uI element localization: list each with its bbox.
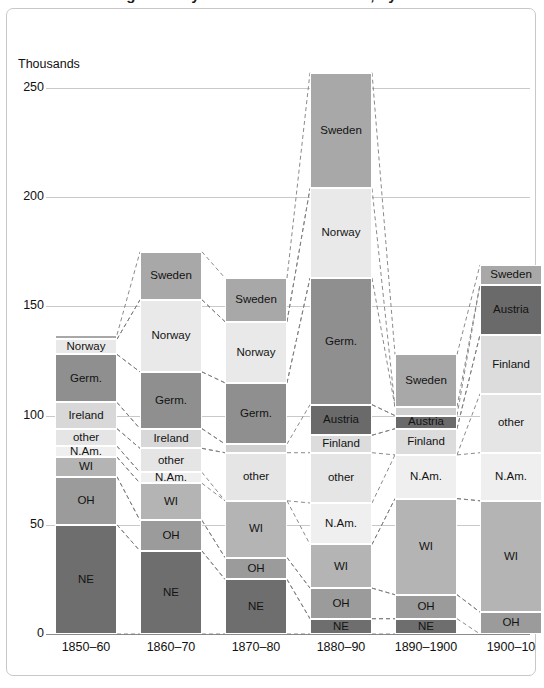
bar-segment-label: other [328, 472, 354, 484]
bar-segment-label: N.Am. [325, 518, 357, 530]
bar-segment-label: other [158, 455, 184, 467]
bar-segment-wi[interactable]: WI [140, 483, 202, 520]
bar-2[interactable]: NEOHWIotherGerm.NorwaySweden [225, 0, 287, 688]
connector-line [372, 429, 395, 436]
bar-segment-label: other [498, 417, 524, 429]
bar-segment-sweden[interactable]: Sweden [310, 73, 372, 189]
bar-segment-norway[interactable]: Norway [225, 322, 287, 383]
bar-0[interactable]: NEOHWIN.Am.otherIrelandGerm.Norway [55, 0, 117, 688]
bar-segment-oh[interactable]: OH [395, 595, 457, 619]
bar-segment-wi[interactable]: WI [310, 544, 372, 588]
connector-line [372, 588, 395, 595]
bar-segment-label: Germ. [155, 395, 187, 407]
bar-segment-label: Austria [408, 416, 444, 428]
bar-segment-finland[interactable]: Finland [310, 435, 372, 452]
connector-line [202, 372, 225, 383]
connector-line [287, 188, 310, 321]
connector-line [202, 472, 225, 500]
bar-segment-nam[interactable]: N.Am. [55, 446, 117, 457]
bar-segment-nam[interactable]: N.Am. [395, 455, 457, 499]
bar-segment-sweden[interactable]: Sweden [140, 252, 202, 300]
bar-segment-label: WI [334, 561, 348, 573]
bar-segment-ireland[interactable]: Ireland [55, 402, 117, 428]
bar-segment-other[interactable]: other [55, 429, 117, 446]
bar-segment-other[interactable]: other [310, 453, 372, 503]
bar-segment-ireland[interactable] [225, 444, 287, 453]
bar-segment-label: Sweden [490, 269, 532, 281]
plot-area: Thousands 250200150100500 NEOHWIN.Am.oth… [0, 0, 544, 688]
bar-segment-germ[interactable] [395, 407, 457, 416]
connector-line [457, 499, 480, 501]
bar-segment-austria[interactable]: Austria [310, 405, 372, 436]
bar-segment-austria[interactable]: Austria [480, 285, 542, 335]
connector-line [287, 579, 310, 618]
connector-line [287, 558, 310, 589]
bar-segment-sweden[interactable] [55, 335, 117, 339]
bar-segment-ne[interactable]: NE [225, 579, 287, 634]
bar-segment-germ[interactable]: Germ. [55, 354, 117, 402]
bar-segment-label: Finland [322, 438, 360, 450]
connector-line [457, 285, 480, 416]
bar-segment-label: NE [333, 621, 349, 633]
bar-segment-sweden[interactable]: Sweden [225, 278, 287, 322]
bar-segment-ne[interactable]: NE [140, 551, 202, 634]
connector-line [202, 551, 225, 579]
bar-segment-other[interactable]: other [225, 453, 287, 501]
bar-segment-norway[interactable]: Norway [140, 300, 202, 372]
bar-5[interactable]: OHWIN.Am.otherFinlandAustriaSweden [480, 0, 542, 688]
bar-segment-label: Finland [407, 436, 445, 448]
bar-segment-austria[interactable]: Austria [395, 416, 457, 429]
connector-line [117, 477, 140, 521]
bar-segment-other[interactable]: other [140, 448, 202, 472]
bar-segment-germ[interactable]: Germ. [225, 383, 287, 444]
bar-segment-oh[interactable]: OH [55, 477, 117, 525]
bar-segment-label: OH [417, 601, 434, 613]
connector-line [287, 278, 310, 383]
bar-segment-finland[interactable]: Finland [395, 429, 457, 455]
bar-segment-label: NE [78, 574, 94, 586]
connector-line [372, 455, 395, 503]
bar-segment-ne[interactable]: NE [395, 619, 457, 634]
bar-segment-ireland[interactable]: Ireland [140, 429, 202, 449]
bar-segment-wi[interactable]: WI [225, 501, 287, 558]
connector-line [202, 520, 225, 557]
bar-segment-wi[interactable]: WI [395, 499, 457, 595]
bar-segment-germ[interactable]: Germ. [140, 372, 202, 429]
bar-1[interactable]: NEOHWIN.Am.otherIrelandGerm.NorwaySweden [140, 0, 202, 688]
bar-segment-label: N.Am. [70, 446, 102, 457]
bar-3[interactable]: NEOHWIN.Am.otherFinlandAustriaGerm.Norwa… [310, 0, 372, 688]
connector-line [457, 595, 480, 612]
bar-segment-oh[interactable]: OH [480, 612, 542, 634]
bar-segment-oh[interactable]: OH [310, 588, 372, 619]
bar-segment-ne[interactable]: NE [55, 525, 117, 634]
connector-line [457, 285, 480, 407]
y-axis-tick-200: 200 [8, 189, 44, 203]
connector-line [117, 525, 140, 551]
bar-4[interactable]: NEOHWIN.Am.FinlandAustriaSweden [395, 0, 457, 688]
bar-segment-oh[interactable]: OH [225, 558, 287, 580]
bar-segment-norway[interactable]: Norway [310, 188, 372, 278]
gridline-250 [46, 88, 530, 89]
x-axis-baseline [46, 634, 530, 635]
bar-segment-label: Ireland [68, 410, 103, 422]
connector-line [202, 429, 225, 444]
connector-line [372, 499, 395, 545]
bar-segment-ne[interactable]: NE [310, 619, 372, 634]
bar-segment-other[interactable]: other [480, 394, 542, 453]
bar-segment-germ[interactable]: Germ. [310, 278, 372, 405]
bar-segment-label: N.Am. [495, 471, 527, 483]
bar-segment-wi[interactable]: WI [55, 457, 117, 477]
bar-segment-sweden[interactable]: Sweden [480, 265, 542, 285]
bar-segment-nam[interactable]: N.Am. [140, 472, 202, 483]
bar-segment-sweden[interactable]: Sweden [395, 354, 457, 406]
bar-segment-oh[interactable]: OH [140, 520, 202, 551]
connector-line [287, 501, 310, 545]
bar-segment-nam[interactable]: N.Am. [480, 453, 542, 501]
connector-line [202, 429, 225, 444]
bar-segment-label: NE [418, 621, 434, 633]
bar-segment-nam[interactable]: N.Am. [310, 503, 372, 544]
bar-segment-wi[interactable]: WI [480, 501, 542, 612]
bar-segment-norway[interactable]: Norway [55, 339, 117, 354]
bar-segment-finland[interactable]: Finland [480, 335, 542, 394]
x-tick-5: 1900–10 [459, 640, 544, 654]
